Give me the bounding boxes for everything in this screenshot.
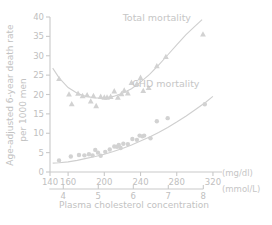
x-unit-secondary-label: (mmol/L) [222, 184, 260, 194]
data-point-markers [56, 31, 207, 162]
data-point [103, 150, 107, 154]
data-point [93, 103, 99, 108]
annotation-total-mortality: Total mortality [122, 12, 192, 23]
data-point [56, 76, 62, 81]
data-point [130, 137, 134, 141]
y-tick-label-0: 0 [39, 167, 44, 177]
x-axis-secondary-group: 45678 [49, 185, 206, 201]
y-tick-label-5: 5 [39, 148, 44, 158]
data-point [77, 153, 81, 157]
data-point [82, 153, 86, 157]
y-tick-label-25: 25 [33, 70, 44, 80]
series-total-mortality [56, 31, 206, 108]
y-tick-label-10: 10 [33, 128, 44, 138]
x-axis-tick-labels: 140160200240280320 [42, 177, 221, 187]
data-point [155, 119, 159, 123]
y-tick-label-15: 15 [33, 109, 44, 119]
y-tick-label-35: 35 [33, 31, 44, 41]
x-tick-label-160: 160 [60, 177, 76, 187]
x-axis-primary-group: 140160200240280320 [42, 172, 222, 187]
data-point [165, 116, 169, 120]
x-axis-title: Plasma cholesterol concentration [59, 200, 209, 210]
data-point [154, 63, 160, 68]
y-tick-label-40: 40 [33, 12, 44, 22]
x-tick-label-280: 280 [169, 177, 185, 187]
mortality-scatter-chart: 0510152025303540 140160200240280320 4567… [0, 0, 272, 225]
data-point [118, 146, 122, 150]
data-point [200, 31, 206, 36]
fit-curves [53, 20, 213, 163]
data-point [69, 154, 73, 158]
data-point [126, 142, 130, 146]
data-point [121, 142, 125, 146]
series-chd-mortality [57, 102, 207, 163]
data-point [91, 93, 97, 98]
y-tick-label-20: 20 [33, 90, 44, 100]
y-tick-label-30: 30 [33, 51, 44, 61]
data-point [57, 158, 61, 162]
x-tick-label-320: 320 [205, 177, 221, 187]
data-point [98, 154, 102, 158]
data-point [84, 92, 90, 97]
data-point [135, 138, 139, 142]
y-axis-group: 0510152025303540 [33, 12, 50, 177]
chart-figure: 0510152025303540 140160200240280320 4567… [0, 0, 272, 225]
data-point [66, 91, 72, 96]
data-point [148, 136, 152, 140]
annotation-chd-mortality: CHD mortality [132, 78, 200, 89]
data-point [203, 102, 207, 106]
y-axis-ticks [46, 17, 50, 172]
fit-curve-chd-mortality [53, 96, 213, 163]
y-axis-tick-labels: 0510152025303540 [33, 12, 44, 177]
data-point [88, 98, 94, 103]
x-tick-label-240: 240 [132, 177, 148, 187]
data-point [111, 88, 117, 93]
data-point [108, 147, 112, 151]
x-axis-ticks [50, 172, 213, 176]
y-axis-title-line1: Age-adjusted 6-year death rate [5, 24, 15, 166]
data-point [142, 133, 146, 137]
y-axis-title-line2: per 1000 men [18, 78, 28, 142]
x-unit-primary-label: (mg/dl) [222, 168, 253, 178]
data-point [69, 101, 75, 106]
series-annotations: Total mortalityCHD mortality [122, 12, 200, 89]
x-tick-label-140: 140 [42, 177, 58, 187]
data-point [90, 153, 94, 157]
data-point [121, 87, 127, 92]
